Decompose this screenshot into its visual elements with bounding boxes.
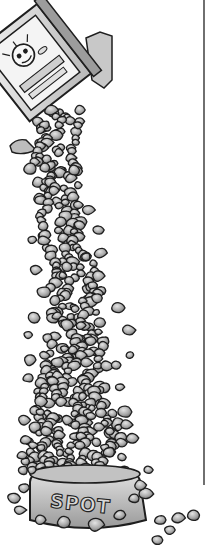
dog-bowl: SPOT xyxy=(30,465,146,528)
kibble-pile xyxy=(17,105,139,477)
bag-curl-icon xyxy=(10,140,36,154)
kibble-illustration: SPOT xyxy=(0,0,218,551)
